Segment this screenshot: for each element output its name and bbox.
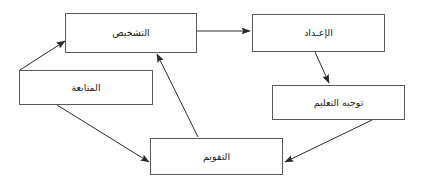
node-follow-up[interactable]: المتابعة: [19, 70, 153, 105]
node-teaching-guidance[interactable]: توجيه التعليم: [272, 85, 405, 120]
edge-guidance-to-evaluation: [285, 120, 372, 162]
node-follow-up-label: المتابعة: [71, 83, 100, 93]
edge-followup-to-evaluation: [57, 105, 149, 162]
diagram-canvas: التشخيص الإعـداد المتابعة توجيه التعليم …: [0, 0, 424, 187]
edge-preparation-to-guidance: [315, 52, 329, 83]
node-evaluation[interactable]: التقويم: [150, 138, 283, 175]
node-diagnosis[interactable]: التشخيص: [65, 13, 197, 53]
edge-evaluation-to-diagnosis: [157, 54, 198, 137]
node-diagnosis-label: التشخيص: [112, 28, 150, 38]
node-preparation-label: الإعـداد: [304, 28, 333, 38]
node-preparation[interactable]: الإعـداد: [252, 14, 385, 52]
edge-followup-to-diagnosis: [20, 41, 65, 70]
node-teaching-guidance-label: توجيه التعليم: [314, 98, 364, 108]
node-evaluation-label: التقويم: [203, 152, 230, 162]
